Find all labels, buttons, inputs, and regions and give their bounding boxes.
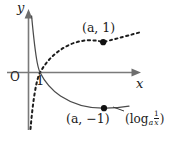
point-label-a-minus-1: (a, −1) <box>66 113 110 126</box>
point-label-a-1: (a, 1) <box>82 22 115 35</box>
curve-label-log-a-one-over-x: (loga1x) <box>125 110 165 127</box>
x-axis-label: x <box>136 77 143 90</box>
point-dot-a-1 <box>100 39 106 45</box>
logarithm-graph-figure: y x O 1 (a, 1) (a, −1) (loga1x) <box>0 0 173 141</box>
origin-label: O <box>10 71 20 83</box>
curve-label-fraction: 1x <box>154 110 160 126</box>
curve-label-base: a <box>149 118 153 127</box>
curve-label-suffix: ) <box>160 112 165 126</box>
y-axis-label: y <box>17 1 24 14</box>
curve-label-prefix: (log <box>125 112 148 126</box>
curve-label-denominator: x <box>154 119 160 127</box>
x-intercept-tick-label: 1 <box>36 74 44 87</box>
